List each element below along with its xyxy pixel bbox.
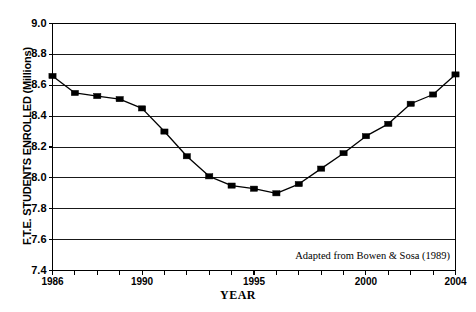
data-point-marker [362,134,369,139]
data-point-marker [206,174,213,179]
data-point-marker [183,154,190,159]
data-point-marker [116,97,123,102]
data-point-marker [340,151,347,156]
chart-figure: F.T.E. STUDENTS ENROLLED (Millions) YEAR… [0,0,476,312]
data-point-marker [71,90,78,95]
source-annotation: Adapted from Bowen & Sosa (1989) [295,250,450,261]
data-point-marker [49,73,56,78]
data-point-marker [94,93,101,98]
data-point-marker [295,181,302,186]
data-series-line [53,74,456,193]
data-point-marker [273,191,280,196]
data-point-marker [318,166,325,171]
data-point-marker [385,121,392,126]
data-point-marker [161,129,168,134]
data-point-marker [452,72,459,77]
data-point-marker [430,92,437,97]
data-point-marker [250,186,257,191]
data-point-marker [407,101,414,106]
data-point-marker [228,183,235,188]
data-point-marker [138,106,145,111]
plot-area [0,0,476,312]
